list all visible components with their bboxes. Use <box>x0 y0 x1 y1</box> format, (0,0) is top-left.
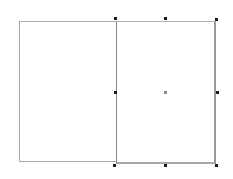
left-rectangle-shape[interactable] <box>19 21 116 162</box>
resize-handle-middle-right[interactable] <box>216 91 219 94</box>
resize-handle-top-left[interactable] <box>114 17 117 20</box>
resize-handle-bottom-right[interactable] <box>215 164 218 167</box>
resize-handle-middle-left[interactable] <box>114 91 117 94</box>
resize-handle-bottom-left[interactable] <box>113 164 116 167</box>
resize-handle-top-right[interactable] <box>215 18 218 21</box>
resize-handle-bottom-center[interactable] <box>164 164 167 167</box>
resize-handle-top-center[interactable] <box>164 17 167 20</box>
drawing-canvas[interactable] <box>0 0 233 179</box>
center-point-icon[interactable] <box>164 91 167 94</box>
